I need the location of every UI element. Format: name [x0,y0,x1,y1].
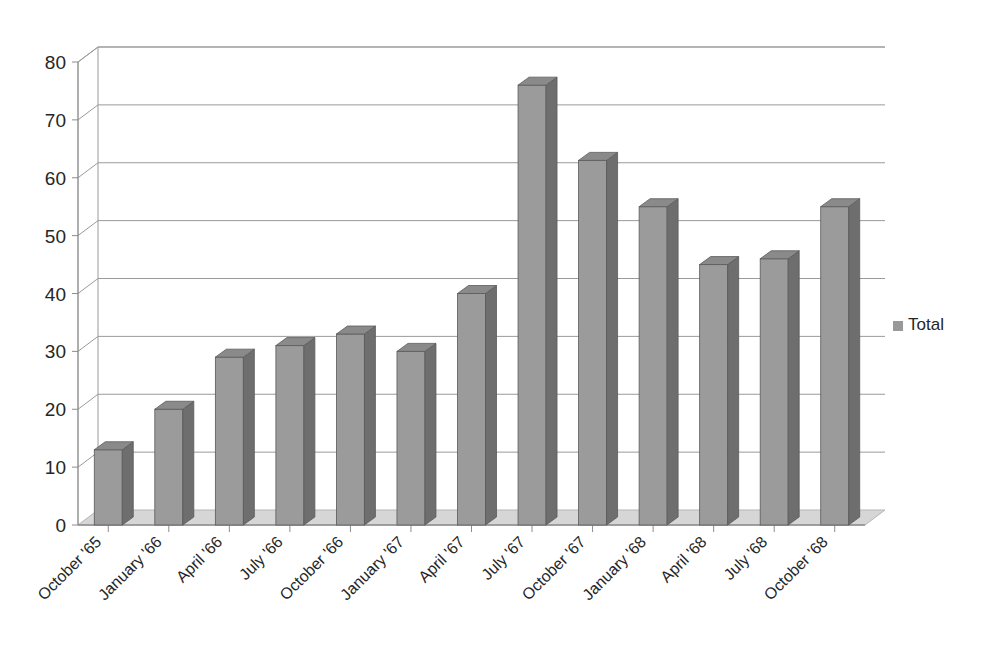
legend-swatch [893,321,903,331]
bar-front-face [397,351,425,525]
bar-side-face [728,257,739,525]
bar-front-face [155,409,183,525]
x-category-label: July '66 [236,533,286,583]
bar-column[interactable] [458,286,497,526]
gridline [78,105,885,120]
bar-front-face [700,265,728,525]
bar-chart-3d: 01020304050607080 October '65January '66… [0,0,987,647]
x-category-label: January '66 [95,533,165,603]
bar-front-face [518,85,546,525]
bar-column[interactable] [518,77,557,525]
gridline [78,163,885,178]
bar-column[interactable] [579,152,618,525]
bar-side-face [183,401,194,525]
bar-front-face [821,207,849,525]
bar-side-face [243,349,254,525]
bar-side-face [788,251,799,525]
y-tick-label: 20 [45,399,66,420]
x-category-label: July '68 [720,533,770,583]
y-tick-label: 70 [45,110,66,131]
y-tick-label: 80 [45,52,66,73]
x-category-label: April '67 [415,533,468,586]
bar-side-face [122,442,133,525]
bar-side-face [546,77,557,525]
bar-front-face [639,207,667,525]
x-category-label: October '66 [276,533,346,603]
legend-label: Total [908,315,944,334]
bar-side-face [607,152,618,525]
bar-column[interactable] [155,401,194,525]
gridline [78,47,885,62]
y-tick-label: 30 [45,341,66,362]
bar-column[interactable] [397,343,436,525]
y-tick-label: 10 [45,457,66,478]
bar-front-face [458,294,486,526]
y-tick-label: 0 [55,515,66,536]
bar-column[interactable] [215,349,254,525]
bar-column[interactable] [700,257,739,525]
x-category-label: April '66 [173,533,226,586]
bar-side-face [486,286,497,526]
y-tick-label: 50 [45,226,66,247]
bar-front-face [276,346,304,525]
bar-column[interactable] [336,326,375,525]
bar-column[interactable] [821,199,860,525]
bar-side-face [364,326,375,525]
bar-front-face [94,450,122,525]
x-category-label: April '68 [657,533,710,586]
bar-side-face [304,338,315,525]
y-tick-label: 40 [45,284,66,305]
x-category-label: July '67 [478,533,528,583]
bar-column[interactable] [639,199,678,525]
bars-group [94,77,859,525]
gridline [78,221,885,236]
x-category-label: January '67 [337,533,407,603]
chart-legend: Total [893,315,944,334]
bar-front-face [760,259,788,525]
bar-side-face [425,343,436,525]
chart-container: 01020304050607080 October '65January '66… [0,0,987,647]
bar-side-face [667,199,678,525]
bar-front-face [336,334,364,525]
bar-column[interactable] [276,338,315,525]
x-axis-category-labels: October '65January '66April '66July '66O… [34,533,831,603]
x-category-label: October '68 [761,533,831,603]
bar-column[interactable] [94,442,133,525]
bar-front-face [579,160,607,525]
y-axis-tick-labels: 01020304050607080 [45,52,66,536]
x-category-label: October '65 [34,533,104,603]
y-tick-label: 60 [45,168,66,189]
plot-top-border [78,47,885,62]
bar-side-face [849,199,860,525]
bar-column[interactable] [760,251,799,525]
x-category-label: October '67 [519,533,589,603]
bar-front-face [215,357,243,525]
x-category-label: January '68 [579,533,649,603]
